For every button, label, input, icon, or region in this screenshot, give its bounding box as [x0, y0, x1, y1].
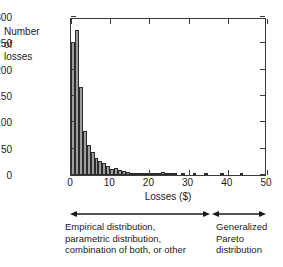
- gpd-range-caption: Generalized Pareto distribution: [216, 221, 282, 256]
- x-axis-tick: [267, 19, 268, 24]
- plot-area: [70, 18, 266, 176]
- x-axis-tick: [71, 170, 72, 175]
- x-axis-tick-label: 30: [173, 178, 203, 188]
- empirical-range-caption-line-3: combination of both, or other: [65, 244, 210, 256]
- gpd-range-caption-line-1: Generalized: [216, 221, 282, 233]
- histogram-bar: [220, 173, 224, 175]
- x-axis-tick: [228, 19, 229, 24]
- gpd-range-arrow-head-right: [259, 211, 266, 217]
- y-axis-tick: [260, 69, 265, 70]
- histogram-bar: [240, 173, 244, 175]
- histogram-figure: Number of losses 05010015020025030001020…: [0, 0, 283, 267]
- gpd-range-arrow-head-left: [212, 211, 219, 217]
- empirical-range-arrow-head-left: [70, 211, 77, 217]
- y-axis-tick: [260, 95, 265, 96]
- y-axis-tick-label: 150: [0, 92, 12, 102]
- empirical-range-caption: Empirical distribution, parametric distr…: [65, 221, 210, 256]
- y-axis-title-line-1: Number: [4, 26, 56, 39]
- y-axis-tick-label: 200: [0, 66, 12, 76]
- x-axis-tick-label: 10: [94, 178, 124, 188]
- y-axis-tick: [71, 148, 76, 149]
- y-axis-tick-label: 100: [0, 118, 12, 128]
- y-axis-title-line-3: losses: [4, 51, 56, 64]
- x-axis-tick-label: 50: [251, 178, 281, 188]
- histogram-bar: [193, 173, 197, 175]
- gpd-range-caption-line-2: Pareto: [216, 233, 282, 245]
- y-axis-tick: [71, 95, 76, 96]
- y-axis-tick: [260, 16, 265, 17]
- x-axis-tick: [110, 170, 111, 175]
- x-axis-tick: [149, 19, 150, 24]
- x-axis-tick: [110, 19, 111, 24]
- histogram-bar: [204, 173, 208, 175]
- x-axis-tick-label: 0: [55, 178, 85, 188]
- x-axis-tick: [71, 19, 72, 24]
- empirical-range-caption-line-1: Empirical distribution,: [65, 221, 210, 233]
- empirical-range-caption-line-2: parametric distribution,: [65, 233, 210, 245]
- histogram-bar: [181, 173, 185, 175]
- y-axis-tick-label: 250: [0, 39, 12, 49]
- x-axis-tick: [149, 170, 150, 175]
- y-axis-tick: [71, 42, 76, 43]
- y-axis-tick: [71, 69, 76, 70]
- y-axis-tick-label: 300: [0, 13, 12, 23]
- y-axis-tick: [260, 121, 265, 122]
- y-axis-tick-label: 50: [0, 145, 12, 155]
- x-axis-tick: [267, 170, 268, 175]
- empirical-range-arrow-head-right: [203, 211, 210, 217]
- x-axis-tick: [189, 19, 190, 24]
- y-axis-tick: [260, 42, 265, 43]
- x-axis-title: Losses ($): [70, 191, 266, 202]
- histogram-bar: [173, 173, 177, 175]
- y-axis-tick: [260, 148, 265, 149]
- y-axis-tick: [71, 121, 76, 122]
- x-axis-tick: [189, 170, 190, 175]
- x-axis-tick-label: 40: [212, 178, 242, 188]
- y-axis-tick: [260, 174, 265, 175]
- x-axis-tick-label: 20: [133, 178, 163, 188]
- y-axis-tick: [71, 16, 76, 17]
- x-axis-tick: [228, 170, 229, 175]
- y-axis-tick-label: 0: [0, 171, 12, 181]
- histogram-bars: [71, 19, 265, 175]
- gpd-range-caption-line-3: distribution: [216, 244, 282, 256]
